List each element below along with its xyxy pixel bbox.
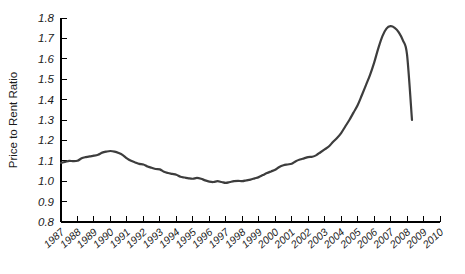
y-tick-label: 1.5 xyxy=(38,73,55,85)
y-tick-label: 1.7 xyxy=(38,32,55,44)
y-tick-label: 0.8 xyxy=(38,216,55,228)
y-tick-labels: 0.80.91.01.11.21.31.41.51.61.71.8 xyxy=(38,12,55,228)
y-axis-title: Price to Rent Ratio xyxy=(7,72,19,169)
y-tick-label: 1.4 xyxy=(38,94,54,106)
chart-canvas: 0.80.91.01.11.21.31.41.51.61.71.8 198719… xyxy=(0,0,465,274)
x-axis xyxy=(61,216,440,222)
x-tick-labels: 1987198819891990199119921993199419951996… xyxy=(41,225,446,251)
price-to-rent-ratio-chart: 0.80.91.01.11.21.31.41.51.61.71.8 198719… xyxy=(0,0,465,274)
y-tick-label: 1.8 xyxy=(38,12,55,24)
y-tick-label: 1.1 xyxy=(38,155,54,167)
y-tick-label: 1.3 xyxy=(38,114,55,126)
data-series-line xyxy=(61,26,412,183)
y-tick-label: 1.2 xyxy=(38,134,55,146)
y-axis xyxy=(61,18,67,222)
y-tick-label: 0.9 xyxy=(38,196,55,208)
y-tick-label: 1.0 xyxy=(38,175,55,187)
y-tick-label: 1.6 xyxy=(38,53,55,65)
series-line xyxy=(61,26,412,183)
